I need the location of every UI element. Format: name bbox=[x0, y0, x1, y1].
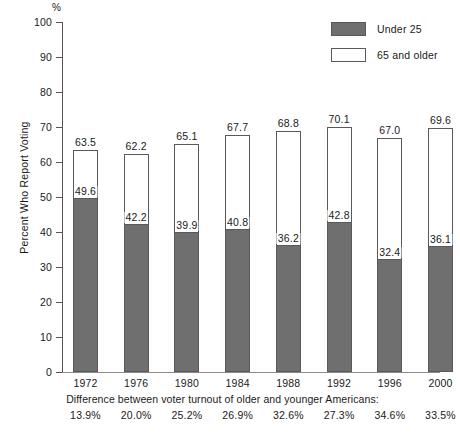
y-axis-tick-label: 70 bbox=[24, 122, 52, 133]
bar-value-label-65-and-older: 63.5 bbox=[75, 137, 96, 148]
y-axis-tick-label-wrap: 90 bbox=[0, 52, 52, 63]
y-axis-tick-label-wrap: 80 bbox=[0, 87, 52, 98]
y-axis-tick-label: 100 bbox=[24, 17, 52, 28]
bar-value-label-under-25: 40.8 bbox=[226, 217, 249, 228]
difference-value-label: 33.5% bbox=[416, 410, 460, 421]
bar-group: 62.242.2 bbox=[124, 22, 149, 372]
x-axis-tick-label: 1976 bbox=[111, 378, 161, 389]
legend-swatch-icon-65-and-older bbox=[331, 48, 366, 62]
x-axis-tick-label: 1992 bbox=[314, 378, 364, 389]
x-axis-tick-label: 1980 bbox=[162, 378, 212, 389]
y-axis-tick-label: 30 bbox=[24, 262, 52, 273]
y-axis-tick-label-wrap: 20 bbox=[0, 297, 52, 308]
bar-value-label-under-25: 36.2 bbox=[277, 233, 300, 244]
bar-value-label-65-and-older: 67.7 bbox=[227, 122, 248, 133]
bar-value-label-65-and-older: 65.1 bbox=[176, 131, 197, 142]
legend-swatch-icon-under-25 bbox=[331, 22, 366, 36]
bar-value-label-65-and-older: 70.1 bbox=[328, 114, 349, 125]
bar-value-label-under-25: 42.2 bbox=[125, 212, 148, 223]
difference-value-label: 13.9% bbox=[61, 410, 111, 421]
bar-value-label-under-25: 49.6 bbox=[74, 186, 97, 197]
bar-value-label-65-and-older: 67.0 bbox=[379, 125, 400, 136]
y-axis-tick-label-wrap: 40 bbox=[0, 227, 52, 238]
bar-group: 67.032.4 bbox=[377, 22, 402, 372]
bar-under-25 bbox=[377, 259, 402, 372]
bar-under-25 bbox=[73, 198, 98, 372]
bar-under-25 bbox=[276, 245, 301, 372]
difference-value-label: 32.6% bbox=[263, 410, 313, 421]
x-axis-tick-label: 1988 bbox=[263, 378, 313, 389]
bar-under-25 bbox=[428, 246, 453, 372]
x-axis-tick-label: 2000 bbox=[416, 378, 460, 389]
y-axis-tick-label-wrap: 0 bbox=[0, 367, 52, 378]
bar-under-25 bbox=[327, 222, 352, 372]
bar-value-label-65-and-older: 68.8 bbox=[278, 118, 299, 129]
y-axis-tick-label: 80 bbox=[24, 87, 52, 98]
difference-value-label: 34.6% bbox=[365, 410, 415, 421]
plot-area: 63.549.662.242.265.139.967.740.868.836.2… bbox=[62, 22, 440, 372]
y-axis-tick-label: 50 bbox=[24, 192, 52, 203]
y-axis-tick-label: 10 bbox=[24, 332, 52, 343]
bar-group: 69.636.1 bbox=[428, 22, 453, 372]
bar-value-label-65-and-older: 62.2 bbox=[126, 141, 147, 152]
difference-value-label: 20.0% bbox=[111, 410, 161, 421]
bar-group: 63.549.6 bbox=[73, 22, 98, 372]
bar-value-label-65-and-older: 69.6 bbox=[430, 115, 451, 126]
y-axis-tick-label: 90 bbox=[24, 52, 52, 63]
y-axis-tick-label-wrap: 100 bbox=[0, 17, 52, 28]
bar-group: 65.139.9 bbox=[174, 22, 199, 372]
difference-value-label: 27.3% bbox=[314, 410, 364, 421]
x-axis-tick-label: 1984 bbox=[213, 378, 263, 389]
difference-value-label: 25.2% bbox=[162, 410, 212, 421]
y-axis-tick-label-wrap: 10 bbox=[0, 332, 52, 343]
y-axis-tick-label-wrap: 70 bbox=[0, 122, 52, 133]
y-axis-tick-label-wrap: 50 bbox=[0, 192, 52, 203]
bar-under-25 bbox=[174, 232, 199, 372]
difference-value-label: 26.9% bbox=[213, 410, 263, 421]
x-axis-line bbox=[62, 372, 440, 373]
y-axis-tick-label: 40 bbox=[24, 227, 52, 238]
y-axis-tick-label: 20 bbox=[24, 297, 52, 308]
legend-label-under-25: Under 25 bbox=[377, 23, 422, 35]
footnote-title: Difference between voter turnout of olde… bbox=[0, 394, 445, 405]
y-axis-tick-label-wrap: 30 bbox=[0, 262, 52, 273]
bar-value-label-under-25: 32.4 bbox=[378, 247, 401, 258]
bar-group: 68.836.2 bbox=[276, 22, 301, 372]
y-axis-tick bbox=[56, 372, 62, 373]
bar-value-label-under-25: 36.1 bbox=[429, 234, 452, 245]
y-axis-unit-label: % bbox=[52, 3, 61, 13]
bar-value-label-under-25: 42.8 bbox=[327, 210, 350, 221]
y-axis-tick-label: 0 bbox=[24, 367, 52, 378]
x-axis-tick-label: 1972 bbox=[61, 378, 111, 389]
x-axis-tick-label: 1996 bbox=[365, 378, 415, 389]
bar-under-25 bbox=[225, 229, 250, 372]
bar-group: 70.142.8 bbox=[327, 22, 352, 372]
y-axis-tick-label: 60 bbox=[24, 157, 52, 168]
bar-value-label-under-25: 39.9 bbox=[175, 220, 198, 231]
bar-under-25 bbox=[124, 224, 149, 372]
bar-group: 67.740.8 bbox=[225, 22, 250, 372]
y-axis-tick-label-wrap: 60 bbox=[0, 157, 52, 168]
legend-label-65-and-older: 65 and older bbox=[377, 49, 438, 61]
